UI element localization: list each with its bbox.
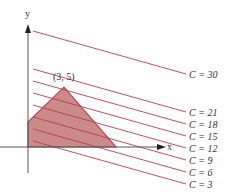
- lp-diagram: y x (3, 5) C = 30 C = 21 C = 18 C = 15 C…: [0, 0, 234, 195]
- level-label-c3: C = 3: [189, 179, 212, 190]
- level-label-c30: C = 30: [189, 69, 217, 80]
- feasible-region: [28, 87, 116, 147]
- level-line-c30: [33, 31, 186, 74]
- level-label-c21: C = 21: [189, 107, 217, 118]
- y-axis-label: y: [25, 8, 30, 19]
- axes: [0, 30, 160, 173]
- level-label-c18: C = 18: [189, 119, 217, 130]
- level-label-c12: C = 12: [189, 143, 217, 154]
- level-label-c15: C = 15: [189, 131, 217, 142]
- y-axis-arrow-icon: [25, 24, 31, 33]
- x-axis-label: x: [167, 141, 172, 152]
- level-label-c9: C = 9: [189, 155, 212, 166]
- vertex-label: (3, 5): [53, 71, 75, 83]
- level-line-c6: [33, 129, 186, 172]
- level-label-c6: C = 6: [189, 167, 212, 178]
- x-axis-arrow-icon: [157, 144, 166, 150]
